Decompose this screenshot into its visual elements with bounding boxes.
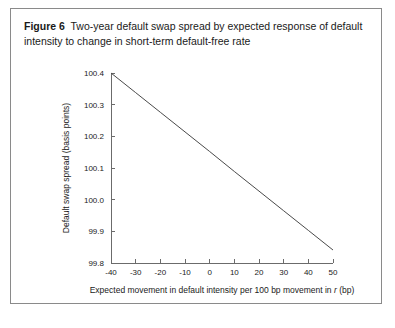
x-tick-label: -10 <box>179 268 191 277</box>
figure-panel: Figure 6 Two-year default swap spread by… <box>10 8 382 304</box>
x-tick-label: 40 <box>304 268 313 277</box>
y-tick-label: 100.0 <box>84 196 105 205</box>
x-tick-label: -20 <box>155 268 167 277</box>
data-series-line <box>111 73 333 250</box>
y-tick-label: 100.4 <box>84 69 105 78</box>
y-tick-label: 99.8 <box>88 259 104 268</box>
x-tick-label: -30 <box>130 268 142 277</box>
x-axis-title: Expected movement in default intensity p… <box>90 285 355 295</box>
x-tick-label: 50 <box>329 268 338 277</box>
y-tick-label: 100.1 <box>84 164 105 173</box>
x-tick-label: -40 <box>105 268 117 277</box>
x-tick-label: 0 <box>207 268 212 277</box>
chart-plot-area: 99.899.9100.0100.1100.2100.3100.4-40-30-… <box>11 9 383 305</box>
y-axis-title: Default swap spread (basis points) <box>61 103 71 234</box>
x-tick-label: 10 <box>230 268 239 277</box>
y-tick-label: 99.9 <box>88 227 104 236</box>
y-tick-label: 100.2 <box>84 132 105 141</box>
y-tick-label: 100.3 <box>84 101 105 110</box>
x-tick-label: 20 <box>255 268 264 277</box>
chart-svg: 99.899.9100.0100.1100.2100.3100.4-40-30-… <box>61 69 354 295</box>
x-tick-label: 30 <box>279 268 288 277</box>
